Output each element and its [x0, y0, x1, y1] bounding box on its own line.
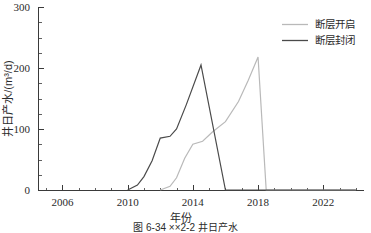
x-tick-label: 2010: [117, 196, 140, 208]
y-axis-title: 井日产水/(m³/d): [1, 60, 14, 136]
legend-label-2[interactable]: 断层封闭: [315, 34, 355, 46]
figure-caption: 图 6-34 ××2-2 井日产水: [0, 221, 371, 233]
tick-labels-group: 010020030020062010201420182022: [14, 1, 335, 208]
x-tick-label: 2022: [312, 196, 334, 208]
y-tick-label: 300: [14, 1, 31, 13]
chart-canvas: 010020030020062010201420182022 断层开启断层封闭 …: [0, 0, 371, 233]
series-group: [128, 57, 356, 190]
x-tick-label: 2006: [51, 196, 74, 208]
x-tick-label: 2014: [182, 196, 205, 208]
chart-legend[interactable]: 断层开启断层封闭: [282, 18, 355, 46]
y-tick-label: 0: [25, 184, 31, 196]
figure-container: 010020030020062010201420182022 断层开启断层封闭 …: [0, 0, 371, 233]
y-tick-label: 200: [14, 62, 31, 74]
legend-label-1[interactable]: 断层开启: [315, 18, 355, 30]
x-tick-label: 2018: [247, 196, 270, 208]
series-line-2: [128, 65, 356, 190]
y-tick-label: 100: [14, 123, 31, 135]
series-line-1: [160, 57, 356, 190]
axis-titles-group: 年份井日产水/(m³/d): [1, 60, 192, 224]
